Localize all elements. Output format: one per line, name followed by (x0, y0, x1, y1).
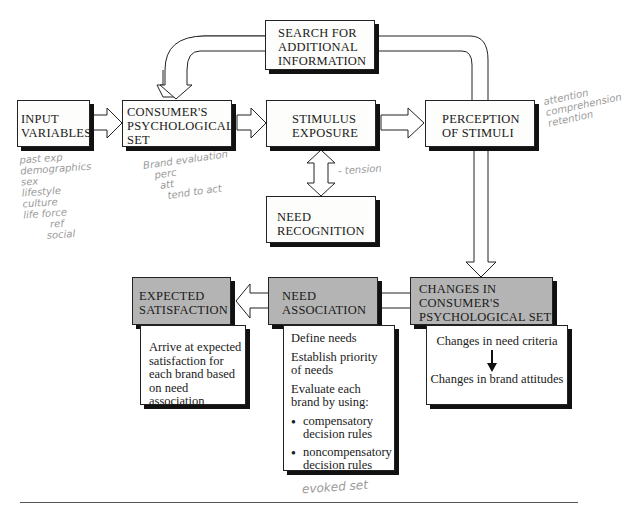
changes-detail-box: Changes in need criteria Changes in bran… (426, 325, 568, 405)
expected-line: EXPECTED (139, 289, 230, 303)
need-association-line: NEED (282, 289, 377, 303)
bottom-rule (20, 502, 578, 503)
need-recognition-box: NEED RECOGNITION (266, 196, 376, 243)
psych-line: SET (127, 133, 227, 147)
define-needs: Define needs (291, 332, 390, 346)
psych-line: PSYCHOLOGICAL (127, 119, 227, 133)
expected-detail-box: Arrive at expected satisfaction for each… (140, 325, 246, 405)
search-line: SEARCH FOR (278, 26, 366, 40)
input-variables-box: INPUT VARIABLES (17, 100, 90, 147)
stimulus-line: EXPOSURE (292, 126, 375, 140)
changes-line: PSYCHOLOGICAL SET (419, 310, 552, 324)
expected-detail-line: on need association (149, 382, 245, 409)
perception-line: OF STIMULI (442, 126, 534, 140)
psychological-set-box: CONSUMER'S PSYCHOLOGICAL SET (122, 100, 232, 147)
changes-box: CHANGES IN CONSUMER'S PSYCHOLOGICAL SET (410, 277, 553, 325)
input-line: INPUT (21, 112, 85, 126)
expected-detail-line: satisfaction for (149, 355, 245, 369)
need-association-detail-box: Define needs Establish priority of needs… (283, 325, 395, 471)
evaluate-brand: Evaluate each brand by using: (291, 383, 390, 410)
handwriting-input-notes: past exp demographics sex lifestyle cult… (19, 150, 96, 243)
search-line: INFORMATION (278, 54, 366, 68)
stimulus-exposure-box: STIMULUS EXPOSURE (266, 100, 376, 147)
changes-line: CONSUMER'S (419, 296, 552, 310)
expected-detail-line: each brand based (149, 368, 245, 382)
expected-line: SATISFACTION (139, 303, 230, 317)
perception-line: PERCEPTION (442, 112, 534, 126)
down-arrow-icon (427, 348, 567, 372)
perception-box: PERCEPTION OF STIMULI (425, 100, 535, 147)
establish-priority: Establish priority of needs (291, 351, 390, 378)
need-recognition-line: NEED (277, 210, 375, 224)
compensatory-bullet: compensatory decision rules (291, 415, 390, 442)
expected-detail-line: Arrive at expected (149, 341, 245, 355)
need-association-box: NEED ASSOCIATION (268, 277, 378, 325)
noncompensatory-bullet: noncompensatory decision rules (291, 446, 390, 473)
stimulus-line: STIMULUS (292, 112, 375, 126)
expected-satisfaction-box: EXPECTED SATISFACTION (132, 277, 231, 325)
search-box: SEARCH FOR ADDITIONAL INFORMATION (265, 20, 375, 70)
need-recognition-line: RECOGNITION (277, 224, 375, 238)
changes-line: CHANGES IN (419, 282, 552, 296)
need-criteria-change: Changes in need criteria (427, 334, 567, 348)
search-line: ADDITIONAL (278, 40, 366, 54)
brand-attitudes-change: Changes in brand attitudes (427, 372, 567, 386)
need-association-line: ASSOCIATION (282, 303, 377, 317)
input-line: VARIABLES (21, 126, 85, 140)
psych-line: CONSUMER'S (127, 105, 227, 119)
